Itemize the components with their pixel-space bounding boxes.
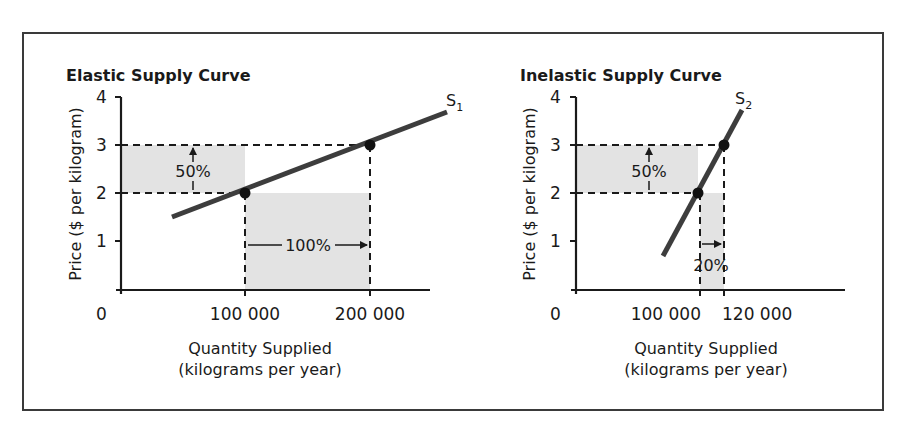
y-axis-label: Price ($ per kilogram) [66,107,85,281]
elastic-chart-title: Elastic Supply Curve [66,66,251,85]
curve-label-s2: S2 [735,89,752,112]
quantity-change-label: 20% [693,256,729,275]
y-tick-4: 4 [96,87,107,107]
curve-label-s1: S1 [446,91,463,114]
y-tick-1: 1 [550,231,561,251]
x-axis-sublabel: (kilograms per year) [178,360,341,379]
inelastic-chart-title: Inelastic Supply Curve [520,66,722,85]
x-axis-sublabel: (kilograms per year) [624,360,787,379]
y-tick-3: 3 [550,135,561,155]
y-tick-1: 1 [96,231,107,251]
x-axis-label: Quantity Supplied [188,339,332,358]
x-tick-0: 0 [550,304,561,324]
y-tick-4: 4 [550,87,561,107]
y-axis-label: Price ($ per kilogram) [520,107,539,281]
x-tick-200000: 200 000 [335,304,405,324]
elastic-chart: Elastic Supply Curve 4 3 2 1 0 100 000 2… [66,66,463,379]
point-a [240,188,251,199]
y-tick-3: 3 [96,135,107,155]
x-axis-label: Quantity Supplied [634,339,778,358]
y-tick-2: 2 [550,183,561,203]
inelastic-chart: Inelastic Supply Curve 4 3 2 1 0 100 000… [520,66,845,379]
price-change-label: 50% [175,162,211,181]
x-tick-120000: 120 000 [722,304,792,324]
x-tick-100000: 100 000 [631,304,701,324]
point-a [693,188,704,199]
supply-curves-figure: Elastic Supply Curve 4 3 2 1 0 100 000 2… [0,0,908,433]
x-tick-100000: 100 000 [210,304,280,324]
point-b [365,140,376,151]
price-change-label: 50% [631,162,667,181]
quantity-change-shade [700,193,724,290]
point-b [719,140,730,151]
quantity-change-label: 100% [285,236,331,255]
y-tick-2: 2 [96,183,107,203]
x-tick-0: 0 [96,304,107,324]
